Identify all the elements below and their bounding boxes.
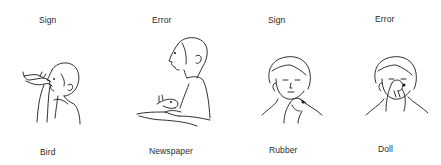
- panel-2-header: Error: [152, 15, 171, 25]
- panel-4-header: Error: [375, 14, 394, 24]
- panel-4-drawing-doll-error: [362, 53, 434, 125]
- panel-1-header: Sign: [39, 15, 56, 25]
- panel-3-caption: Rubber: [269, 145, 297, 155]
- panel-1-caption: Bird: [40, 147, 56, 157]
- panel-3-drawing-rubber-sign: [258, 53, 330, 125]
- doll-error-figure-icon: [362, 53, 434, 125]
- panel-4-caption: Doll: [378, 144, 393, 154]
- bird-sign-figure-icon: [18, 58, 86, 126]
- panel-2-caption: Newspaper: [149, 146, 193, 156]
- panel-2-drawing-newspaper-error: [135, 36, 213, 128]
- panel-3-header: Sign: [268, 15, 285, 25]
- rubber-sign-figure-icon: [258, 53, 330, 125]
- newspaper-error-figure-icon: [135, 36, 213, 128]
- panel-1-drawing-bird-sign: [18, 58, 86, 126]
